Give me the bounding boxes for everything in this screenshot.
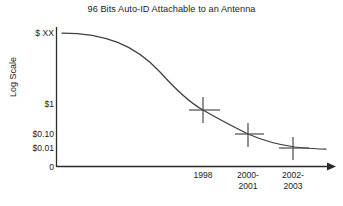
data-point-marker-2002-2003 bbox=[279, 137, 309, 160]
x-tick-label-2000-2001-line2: 2001 bbox=[225, 181, 271, 192]
x-tick-label-1998-line1: 1998 bbox=[180, 170, 226, 181]
chart-figure: 96 Bits Auto-ID Attachable to an Antenna… bbox=[0, 0, 343, 206]
data-point-marker-1998 bbox=[189, 97, 220, 123]
x-tick-label-1998: 1998 bbox=[180, 170, 226, 181]
x-tick-label-2002-2003-line2: 2003 bbox=[270, 181, 316, 192]
x-tick-label-2002-2003-line1: 2002- bbox=[270, 170, 316, 181]
x-tick-label-2000-2001: 2000- 2001 bbox=[225, 170, 271, 192]
x-tick-label-2000-2001-line1: 2000- bbox=[225, 170, 271, 181]
x-axis-arrow-icon bbox=[327, 163, 336, 171]
data-curve bbox=[62, 33, 326, 149]
x-tick-label-2002-2003: 2002- 2003 bbox=[270, 170, 316, 192]
